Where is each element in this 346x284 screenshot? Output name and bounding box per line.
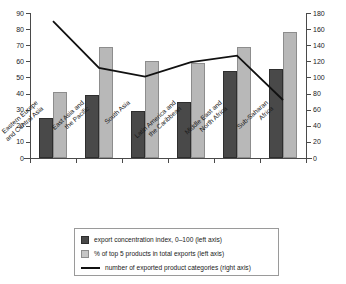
right-axis-tick-label: 160 [313,26,335,33]
left-axis-tick-label: 50 [4,74,24,81]
left-axis-tick-label: 80 [4,26,24,33]
dark-square-swatch-icon [81,236,89,244]
x-axis-tick [306,159,307,163]
left-axis-tick-label: 60 [4,58,24,65]
right-axis-tick-label: 60 [313,106,335,113]
right-axis-tick-label: 140 [313,42,335,49]
chart-figure: 0102030405060708090 02040608010012014016… [0,0,346,284]
right-axis-tick-label: 0 [313,155,335,162]
right-axis-tick [307,45,311,46]
right-axis-tick-label: 20 [313,138,335,145]
chart-legend: export concentration index, 0–100 (left … [74,228,279,276]
legend-item-label: number of exported product categories (r… [105,264,251,272]
legend-item: number of exported product categories (r… [81,262,272,274]
line-series-overlay [30,13,306,158]
legend-item-label: export concentration index, 0–100 (left … [94,236,222,244]
left-axis-tick-label: 70 [4,42,24,49]
right-axis-tick-label: 80 [313,90,335,97]
left-axis-tick-label: 90 [4,10,24,17]
right-axis-tick [307,142,311,143]
right-axis-tick [307,77,311,78]
right-axis-line [306,13,307,159]
legend-item: % of top 5 products in total exports (le… [81,248,272,260]
x-axis-category-label: Sub-SaharanAfrica [193,163,289,223]
left-axis-tick-label: 40 [4,90,24,97]
right-axis-tick-label: 120 [313,58,335,65]
legend-item-label: % of top 5 products in total exports (le… [94,250,224,258]
right-axis-tick [307,110,311,111]
right-axis-tick [307,126,311,127]
line-series-path [53,21,283,100]
black-line-swatch-icon [81,267,100,269]
right-axis-tick [307,158,311,159]
right-axis-tick-label: 100 [313,74,335,81]
right-axis-tick [307,13,311,14]
right-axis-tick-label: 40 [313,122,335,129]
light-square-swatch-icon [81,250,89,258]
right-axis-tick [307,29,311,30]
right-axis-tick [307,61,311,62]
plot-area [30,13,306,158]
right-axis-tick-label: 180 [313,10,335,17]
legend-item: export concentration index, 0–100 (left … [81,234,272,246]
right-axis-tick [307,94,311,95]
